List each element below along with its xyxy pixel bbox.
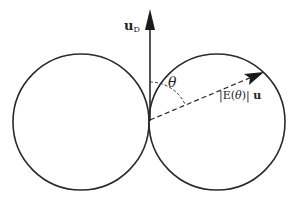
magnitude-theta: θ [235,89,242,102]
magnitude-vector: u [253,89,261,102]
uD-arrowhead-icon [145,9,155,30]
magnitude-prefix: |E( [219,89,235,102]
theta-label: θ [168,74,176,90]
magnitude-suffix: )| [242,89,250,102]
uD-label: uD [124,18,140,34]
uD-label-subscript: D [133,25,139,34]
left-lobe-circle [13,54,149,190]
magnitude-label: |E(θ)| u [219,89,261,102]
